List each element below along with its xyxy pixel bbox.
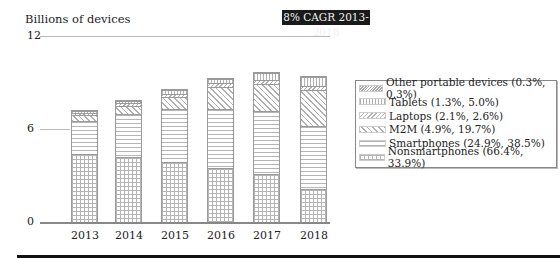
pattern-swatch-icon <box>359 154 385 161</box>
bar-2013 <box>71 110 98 222</box>
bar-segment <box>253 73 280 80</box>
x-tick-label: 2014 <box>109 229 149 242</box>
y-axis-label: Billions of devices <box>25 12 130 26</box>
legend: Other portable devices (0.3%, 0.3%) Tabl… <box>355 80 557 168</box>
legend-label: M2M (4.9%, 19.7%) <box>389 123 495 135</box>
bar-segment <box>300 90 327 126</box>
legend-item-m2m: M2M (4.9%, 19.7%) <box>359 123 556 137</box>
cagr-badge: 8% CAGR 2013-2018 <box>282 10 370 25</box>
x-tick-label: 2018 <box>294 229 334 242</box>
bar-segment <box>253 111 280 174</box>
pattern-swatch-icon <box>359 112 386 119</box>
legend-label: Nonsmartphones (66.4%, 33.9%) <box>388 145 556 169</box>
bar-segment <box>71 154 98 222</box>
x-tick-label: 2013 <box>65 229 105 242</box>
bar-segment <box>161 109 188 162</box>
bar-segment <box>300 189 327 222</box>
bar-segment <box>115 114 142 157</box>
bar-segment <box>253 174 280 222</box>
bar-2017 <box>253 72 280 222</box>
bar-2016 <box>207 78 234 222</box>
pattern-swatch-icon <box>359 140 386 147</box>
bar-segment <box>161 97 188 109</box>
gridline-6 <box>40 129 70 130</box>
bar-segment <box>115 157 142 222</box>
bar-segment <box>115 106 142 114</box>
bar-segment <box>207 87 234 109</box>
legend-item-laptops: Laptops (2.1%, 2.6%) <box>359 109 556 123</box>
bar-segment <box>253 84 280 110</box>
bar-segment <box>300 77 327 86</box>
legend-item-nonsmartphones: Nonsmartphones (66.4%, 33.9%) <box>359 150 556 164</box>
gridline-12 <box>40 36 330 37</box>
legend-item-other: Other portable devices (0.3%, 0.3%) <box>359 81 556 95</box>
bar-segment <box>207 109 234 168</box>
bar-2018 <box>300 76 327 222</box>
pattern-swatch-icon <box>359 85 383 92</box>
legend-label: Tablets (1.3%, 5.0%) <box>389 96 499 108</box>
bar-segment <box>71 121 98 154</box>
bar-2015 <box>161 89 188 222</box>
bar-2014 <box>115 100 142 222</box>
x-tick-label: 2016 <box>201 229 241 242</box>
pattern-swatch-icon <box>359 126 386 133</box>
y-tick-12: 12 <box>27 29 37 42</box>
y-tick-6: 6 <box>27 122 37 135</box>
pattern-swatch-icon <box>359 98 386 105</box>
bar-segment <box>207 168 234 222</box>
x-tick-label: 2017 <box>247 229 287 242</box>
y-tick-0: 0 <box>27 215 37 228</box>
legend-label: Laptops (2.1%, 2.6%) <box>389 110 503 122</box>
bar-segment <box>161 162 188 222</box>
bar-segment <box>300 126 327 189</box>
x-tick-label: 2015 <box>155 229 195 242</box>
x-axis-baseline <box>40 222 330 224</box>
